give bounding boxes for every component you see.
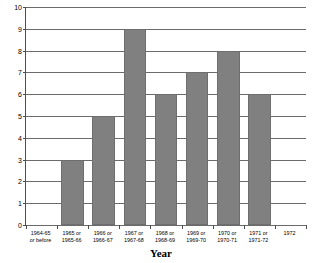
bar-slot [244, 7, 275, 225]
x-tick-label: 1964-65 or before [25, 230, 56, 244]
x-tick-label: 1967 or 1967-68 [118, 230, 149, 244]
bar [248, 94, 271, 225]
x-tick-label: 1971 or 1971-72 [243, 230, 274, 244]
bar-slot [57, 7, 88, 225]
bar [92, 116, 115, 225]
x-axis-tick [213, 225, 214, 229]
x-axis-tick [306, 225, 307, 229]
y-axis-labels: 10 9 8 7 6 5 4 3 2 1 0 [0, 0, 22, 226]
bar-slot [119, 7, 150, 225]
bar-slot [275, 7, 306, 225]
x-axis-tick [150, 225, 151, 229]
x-tick-label: 1970 or 1970-71 [212, 230, 243, 244]
plot-area [25, 7, 306, 226]
x-axis-tick [26, 225, 27, 229]
y-tick-label: 8 [2, 48, 22, 55]
bar-chart: 10 9 8 7 6 5 4 3 2 1 0 1964-65 or before… [0, 0, 322, 263]
x-axis-tick [119, 225, 120, 229]
bar-slot [26, 7, 57, 225]
bar [155, 94, 178, 225]
x-tick-label: 1969 or 1969-70 [181, 230, 212, 244]
x-tick-label: 1972 [274, 230, 305, 244]
gridline [26, 225, 306, 226]
bar-slot [150, 7, 181, 225]
x-axis-tick [244, 225, 245, 229]
y-tick-label: 4 [2, 135, 22, 142]
bar-series [26, 7, 306, 225]
y-tick-label: 0 [2, 222, 22, 229]
bar-slot [88, 7, 119, 225]
y-tick-label: 1 [2, 200, 22, 207]
y-tick-label: 3 [2, 157, 22, 164]
bar-slot [213, 7, 244, 225]
x-axis-tick [275, 225, 276, 229]
y-tick-label: 2 [2, 178, 22, 185]
bar-slot [182, 7, 213, 225]
bar [124, 29, 147, 225]
x-axis-tick [57, 225, 58, 229]
plot-inner [26, 7, 306, 225]
y-tick-label: 5 [2, 113, 22, 120]
x-tick-label: 1968 or 1968-69 [149, 230, 180, 244]
y-tick-label: 9 [2, 26, 22, 33]
bar [217, 51, 240, 225]
y-tick-label: 6 [2, 91, 22, 98]
bar [61, 160, 84, 225]
x-tick-label: 1965 or 1965-66 [56, 230, 87, 244]
bar [186, 72, 209, 225]
y-tick-label: 10 [2, 4, 22, 11]
x-axis-labels: 1964-65 or before1965 or 1965-661966 or … [25, 230, 305, 244]
x-axis-title: Year [0, 247, 322, 259]
x-axis-tick [88, 225, 89, 229]
x-axis-tick [182, 225, 183, 229]
x-tick-label: 1966 or 1966-67 [87, 230, 118, 244]
y-tick-label: 7 [2, 69, 22, 76]
